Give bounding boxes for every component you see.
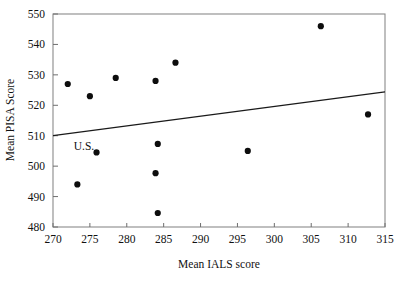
y-axis-tick-labels: 480490500510520530540550: [28, 8, 46, 233]
plot-frame: [53, 14, 385, 227]
y-tick-label: 550: [28, 8, 46, 20]
annotation-label: U.S.: [74, 140, 95, 152]
y-tick-label: 540: [28, 38, 46, 50]
plot-canvas: 270275280285290295300305310315 480490500…: [0, 0, 408, 301]
x-tick-label: 280: [118, 233, 136, 245]
data-points-group: [65, 23, 371, 216]
data-point: [87, 93, 93, 99]
annotations-group: U.S.: [74, 140, 95, 152]
x-tick-label: 300: [266, 233, 284, 245]
y-tick-label: 500: [28, 160, 46, 172]
x-tick-label: 275: [81, 233, 99, 245]
x-tick-label: 285: [155, 233, 173, 245]
x-tick-label: 305: [303, 233, 321, 245]
x-tick-label: 295: [229, 233, 247, 245]
data-point: [172, 60, 178, 66]
y-tick-label: 480: [28, 221, 46, 233]
data-point: [155, 141, 161, 147]
data-point: [152, 78, 158, 84]
data-point: [113, 75, 119, 81]
x-tick-label: 315: [376, 233, 394, 245]
data-point: [365, 111, 371, 117]
y-axis-ticks: [53, 14, 58, 227]
data-point: [318, 23, 324, 29]
data-point: [65, 81, 71, 87]
y-tick-label: 510: [28, 130, 46, 142]
trend-line: [53, 92, 385, 136]
data-point: [245, 148, 251, 154]
scatter-plot-figure: 270275280285290295300305310315 480490500…: [0, 0, 408, 301]
y-tick-label: 490: [28, 191, 46, 203]
x-axis-tick-labels: 270275280285290295300305310315: [44, 233, 394, 245]
x-tick-label: 290: [192, 233, 210, 245]
data-point: [155, 210, 161, 216]
data-point: [93, 149, 99, 155]
data-point: [152, 170, 158, 176]
x-axis-title: Mean IALS score: [178, 258, 260, 270]
x-tick-label: 270: [44, 233, 62, 245]
x-tick-label: 310: [339, 233, 357, 245]
y-axis-title: Mean PISA Score: [4, 79, 16, 161]
x-axis-ticks: [53, 223, 385, 227]
y-tick-label: 530: [28, 69, 46, 81]
y-tick-label: 520: [28, 99, 46, 111]
data-point: [74, 181, 80, 187]
